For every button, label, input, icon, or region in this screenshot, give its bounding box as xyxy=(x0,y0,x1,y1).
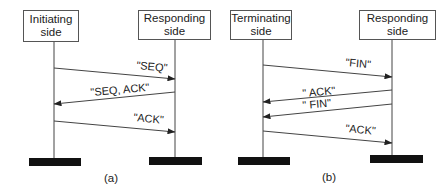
caption-b: (b) xyxy=(322,171,336,183)
caption-a: (a) xyxy=(104,172,118,184)
diagram-a-graphics xyxy=(29,40,202,166)
entity-label-line1: Terminating xyxy=(231,12,290,25)
end-bar-terminating xyxy=(238,157,290,165)
entity-box-initiating: Initiating side xyxy=(23,10,79,42)
entity-label-line2: side xyxy=(40,26,61,39)
message-label-ack-a: "ACK" xyxy=(133,111,164,126)
entity-label-line2: side xyxy=(164,25,185,38)
message-label-fin-2: " FIN" xyxy=(302,97,332,111)
entity-box-responding-b: Responding side xyxy=(359,10,436,40)
entity-label-line2: side xyxy=(250,25,271,38)
arrow-fin-1 xyxy=(263,65,392,77)
end-bar-initiating xyxy=(29,158,81,166)
entity-box-terminating: Terminating side xyxy=(230,10,292,40)
message-label-seq: "SEQ" xyxy=(136,59,168,74)
entity-label-line1: Responding xyxy=(144,12,205,25)
end-bar-responding-b xyxy=(370,155,423,163)
message-label-ack-b2: "ACK" xyxy=(345,122,376,137)
entity-label-line2: side xyxy=(387,25,408,38)
sequence-diagrams: Initiating side Responding side "SEQ" "S… xyxy=(0,0,447,194)
entity-label-line1: Initiating xyxy=(30,13,73,26)
end-bar-responding-a xyxy=(149,157,202,165)
entity-box-responding-a: Responding side xyxy=(138,10,211,40)
entity-label-line1: Responding xyxy=(367,12,428,25)
message-label-fin-1: "FIN" xyxy=(345,56,371,70)
